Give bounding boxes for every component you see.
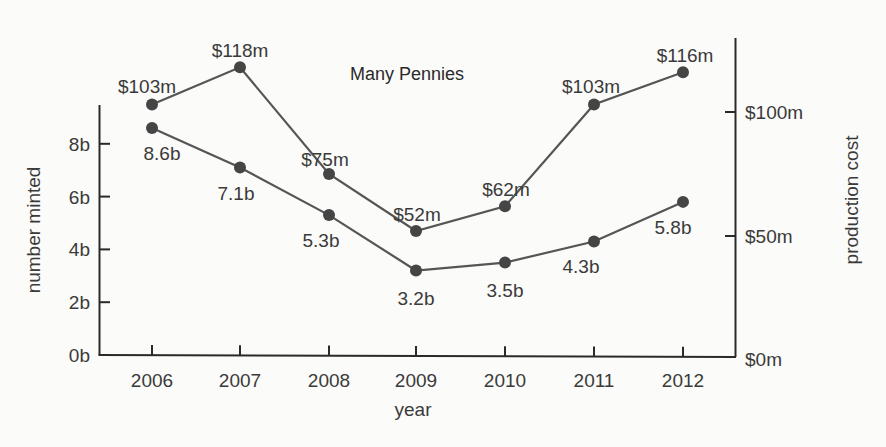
x-axis-title: year — [395, 399, 433, 420]
data-point-cost — [588, 99, 600, 111]
data-point-cost — [234, 61, 246, 73]
data-label-cost: $62m — [482, 179, 530, 200]
left-tick-label: 2b — [69, 292, 90, 313]
data-point-minted — [146, 122, 158, 134]
data-point-minted — [323, 209, 335, 221]
right-y-axis: $0m$50m$100m — [725, 38, 803, 370]
left-tick-label: 8b — [69, 134, 90, 155]
x-tick-label: 2012 — [662, 370, 704, 391]
x-tick-label: 2007 — [219, 370, 261, 391]
right-tick-label: $0m — [745, 349, 782, 370]
data-point-cost — [499, 200, 511, 212]
right-axis-title: production cost — [841, 135, 862, 265]
x-tick-label: 2009 — [395, 370, 437, 391]
left-tick-label: 4b — [69, 239, 90, 260]
data-label-minted: 5.8b — [655, 217, 692, 238]
left-y-axis: 0b2b4b6b8b — [69, 105, 110, 366]
right-tick-label: $50m — [745, 226, 793, 247]
x-tick-label: 2011 — [574, 370, 615, 391]
x-axis: 2006200720082009201020112012 — [99, 345, 737, 391]
data-label-minted: 8.6b — [144, 143, 181, 164]
x-tick-label: 2010 — [484, 370, 526, 391]
x-tick-label: 2006 — [131, 370, 173, 391]
data-label-cost: $52m — [393, 204, 441, 225]
chart-title: Many Pennies — [350, 64, 464, 84]
data-label-minted: 4.3b — [563, 256, 600, 277]
data-point-minted — [588, 235, 600, 247]
data-label-cost: $103m — [562, 76, 620, 97]
data-point-cost — [146, 99, 158, 111]
left-tick-label: 0b — [69, 345, 90, 366]
data-label-minted: 7.1b — [218, 183, 255, 204]
dual-axis-line-chart: Many Pennies 0b2b4b6b8b number minted $0… — [0, 0, 886, 447]
right-tick-label: $100m — [745, 102, 803, 123]
data-label-minted: 5.3b — [303, 230, 340, 251]
data-point-minted — [410, 265, 422, 277]
left-tick-label: 6b — [69, 187, 90, 208]
data-point-cost — [410, 225, 422, 237]
data-label-cost: $75m — [301, 149, 349, 170]
data-point-minted — [234, 162, 246, 174]
data-label-cost: $116m — [657, 45, 714, 66]
data-label-minted: 3.2b — [398, 288, 435, 309]
data-label-cost: $118m — [212, 40, 269, 61]
left-axis-title: number minted — [23, 167, 44, 294]
x-tick-label: 2008 — [308, 370, 350, 391]
data-point-minted — [677, 196, 689, 208]
data-point-minted — [499, 257, 511, 269]
data-label-cost: $103m — [118, 76, 176, 97]
data-label-minted: 3.5b — [487, 280, 524, 301]
data-point-cost — [677, 66, 689, 78]
